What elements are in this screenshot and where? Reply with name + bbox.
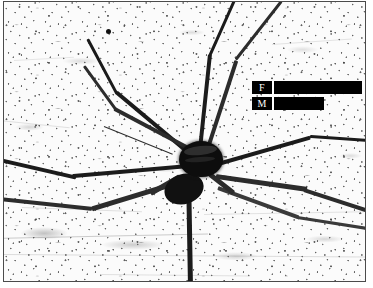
figure-root: F M bbox=[0, 0, 373, 288]
scale-bar-female-fill bbox=[274, 81, 362, 94]
scale-bar-male: M bbox=[252, 97, 324, 110]
scale-bar-female-label: F bbox=[252, 81, 272, 94]
photograph-frame: F M bbox=[3, 1, 366, 282]
substrate-background bbox=[4, 2, 365, 281]
scale-bar-female: F bbox=[252, 81, 362, 94]
scale-bar-male-fill bbox=[274, 97, 324, 110]
photograph-canvas: F M bbox=[4, 2, 365, 281]
scale-bar-male-label: M bbox=[252, 97, 272, 110]
